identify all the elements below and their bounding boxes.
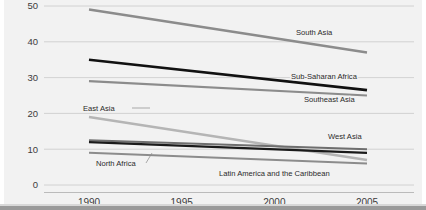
series-label: Latin America and the Caribbean [219, 169, 330, 178]
right-margin [422, 0, 426, 210]
series-label: Sub-Saharan Africa [291, 72, 358, 81]
y-axis-tick-label: 30 [27, 72, 38, 83]
series-label: North Africa [96, 159, 136, 168]
chart-canvas: 010203040501990199520002005South AsiaSou… [0, 0, 426, 210]
series-label: West Asia [328, 132, 362, 141]
series-label: South Asia [296, 28, 333, 37]
y-axis-tick-label: 40 [27, 36, 38, 47]
y-axis-tick-label: 50 [27, 0, 38, 11]
left-margin [0, 0, 4, 210]
line-chart: 010203040501990199520002005South AsiaSou… [0, 0, 426, 210]
series-label: Southeast Asia [304, 95, 355, 104]
y-axis-tick-label: 0 [33, 179, 38, 190]
y-axis-tick-label: 20 [27, 108, 38, 119]
footer-bar [0, 206, 426, 210]
series-line [89, 81, 367, 95]
series-label: East Asia [83, 104, 115, 113]
y-axis-tick-label: 10 [27, 144, 38, 155]
